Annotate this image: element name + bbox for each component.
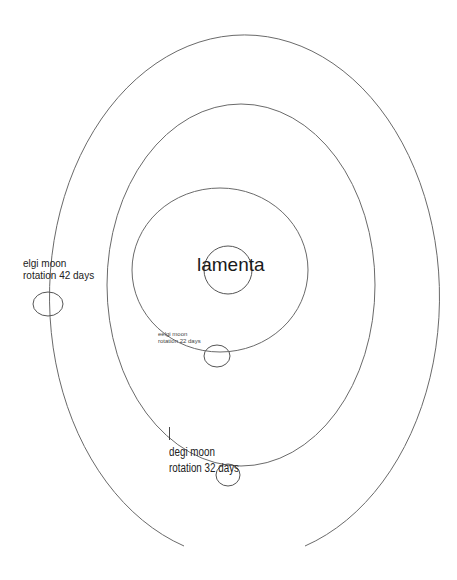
moon-rotation: rotation 22 days	[158, 338, 201, 344]
moon-rotation: rotation 32 days	[169, 462, 239, 474]
moon-elgi	[33, 292, 63, 316]
middle-orbit	[107, 104, 375, 466]
moon-name: eelgi moon	[158, 331, 201, 337]
moon-eelgi	[204, 345, 230, 367]
moon-label-degi: degi moon rotation 32 days	[169, 427, 239, 478]
tick-mark	[169, 427, 170, 440]
moon-rotation: rotation 42 days	[23, 271, 94, 281]
orbital-diagram	[0, 0, 457, 580]
moon-label-eelgi: eelgi moon rotation 22 days	[158, 331, 201, 345]
moon-name: elgi moon	[23, 259, 94, 269]
moon-label-elgi: elgi moon rotation 42 days	[23, 259, 94, 283]
moon-name: degi moon	[169, 446, 239, 458]
planet-label: lamenta	[197, 255, 265, 274]
outer-orbit	[49, 35, 439, 546]
